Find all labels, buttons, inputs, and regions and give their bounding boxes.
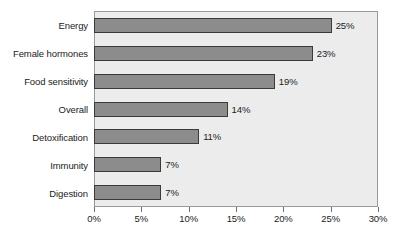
bar-value-label: 19% xyxy=(279,76,298,87)
category-label: Energy xyxy=(58,20,88,31)
bar xyxy=(94,157,161,172)
bar-row: 7% xyxy=(95,151,377,179)
x-tick-mark xyxy=(141,207,142,212)
category-axis-row: Immunity xyxy=(0,151,92,179)
x-axis: 0%5%10%15%20%25%30% xyxy=(94,207,378,237)
x-tick-mark xyxy=(331,207,332,212)
category-axis-row: Overall xyxy=(0,95,92,123)
x-tick-mark xyxy=(236,207,237,212)
bar xyxy=(94,74,275,89)
bar xyxy=(94,18,332,33)
bar-value-label: 7% xyxy=(165,159,179,170)
x-tick-mark xyxy=(189,207,190,212)
bar-row: 11% xyxy=(95,123,377,151)
bar-row: 23% xyxy=(95,40,377,68)
bar-row: 7% xyxy=(95,178,377,206)
x-tick-mark xyxy=(94,207,95,212)
x-tick-label: 30% xyxy=(369,213,388,224)
category-axis-row: Female hormones xyxy=(0,39,92,67)
x-tick-mark xyxy=(283,207,284,212)
bars-layer: 25% 23% 19% 14% 11% 7% xyxy=(95,12,377,206)
plot-area: 25% 23% 19% 14% 11% 7% xyxy=(94,11,378,207)
x-tick-label: 0% xyxy=(87,213,101,224)
bar xyxy=(94,129,199,144)
category-label: Female hormones xyxy=(13,48,88,59)
x-tick-label: 5% xyxy=(135,213,149,224)
x-tick-mark xyxy=(378,207,379,212)
category-axis-row: Digestion xyxy=(0,179,92,207)
bar-value-label: 23% xyxy=(317,48,336,59)
x-tick-label: 20% xyxy=(274,213,293,224)
bar-value-label: 14% xyxy=(232,104,251,115)
bar-value-label: 11% xyxy=(203,131,221,142)
x-tick-label: 15% xyxy=(227,213,246,224)
x-tick-label: 25% xyxy=(321,213,340,224)
bar-chart: Energy Female hormones Food sensitivity … xyxy=(0,0,404,248)
category-label: Overall xyxy=(59,104,88,115)
bar-row: 14% xyxy=(95,95,377,123)
bar-row: 19% xyxy=(95,67,377,95)
bar-value-label: 25% xyxy=(336,20,355,31)
category-label: Digestion xyxy=(49,188,88,199)
category-label: Immunity xyxy=(50,160,88,171)
category-axis: Energy Female hormones Food sensitivity … xyxy=(0,11,92,207)
bar xyxy=(94,46,313,61)
category-axis-row: Energy xyxy=(0,11,92,39)
bar-value-label: 7% xyxy=(165,187,179,198)
x-tick-label: 10% xyxy=(179,213,198,224)
category-label: Detoxification xyxy=(32,132,88,143)
category-label: Food sensitivity xyxy=(24,76,88,87)
category-axis-row: Detoxification xyxy=(0,123,92,151)
category-axis-row: Food sensitivity xyxy=(0,67,92,95)
bar xyxy=(94,185,161,200)
bar-row: 25% xyxy=(95,12,377,40)
bar xyxy=(94,102,228,117)
